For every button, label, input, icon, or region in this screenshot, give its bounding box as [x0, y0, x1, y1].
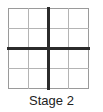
grid-major-line-vertical [47, 7, 50, 90]
subdivided-square-diagram [8, 8, 89, 89]
figure-caption: Stage 2 [0, 93, 103, 109]
stage-2-figure: Stage 2 [0, 0, 103, 112]
